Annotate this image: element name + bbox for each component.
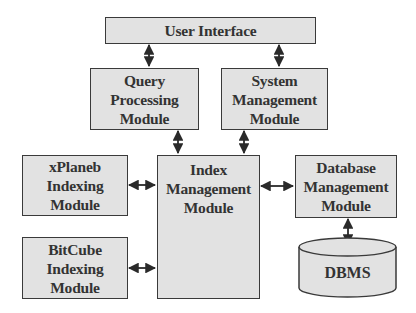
database-management-module-node: Database Management Module <box>295 155 397 218</box>
node-label: Module <box>321 196 371 215</box>
node-label: Processing <box>110 90 178 109</box>
node-label: Module <box>120 109 170 128</box>
node-label: xPlaneb <box>49 157 101 176</box>
index-management-module-node: Index Management Module <box>157 155 260 299</box>
node-label: Management <box>232 90 317 109</box>
node-label: Management <box>304 177 389 196</box>
user-interface-node: User Interface <box>105 17 316 44</box>
node-label: Index <box>190 160 227 179</box>
xplaneb-indexing-module-node: xPlaneb Indexing Module <box>22 155 128 216</box>
node-label: Indexing <box>47 176 104 195</box>
dbms-node-label: DBMS <box>299 264 396 282</box>
bitcube-indexing-module-node: BitCube Indexing Module <box>22 237 128 299</box>
node-label: Module <box>184 198 234 217</box>
node-label: Query <box>124 71 165 90</box>
node-label: System <box>251 71 297 90</box>
node-label: BitCube <box>48 240 102 259</box>
node-label: Indexing <box>47 259 104 278</box>
node-label: Module <box>50 195 100 214</box>
node-label: Module <box>50 278 100 297</box>
node-label: Management <box>166 179 251 198</box>
query-processing-module-node: Query Processing Module <box>90 68 199 130</box>
node-label: Database <box>316 158 376 177</box>
system-management-module-node: System Management Module <box>221 68 328 130</box>
node-label: User Interface <box>164 21 256 40</box>
node-label: Module <box>250 109 300 128</box>
